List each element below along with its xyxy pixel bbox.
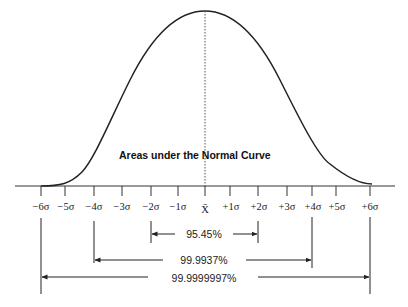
tick-label: −5σ [58,201,75,212]
tick-label: −2σ [143,201,160,212]
tick-label: −1σ [170,201,187,212]
diagram-title: Areas under the Normal Curve [119,149,271,161]
tick-label: +1σ [223,201,240,212]
tick-label: −6σ [33,201,50,212]
tick-label: +4σ [305,201,322,212]
tick-label: +5σ [329,201,346,212]
tick-label: −3σ [114,201,131,212]
normal-curve-diagram: Areas under the Normal Curve −6σ −5σ −4σ… [0,0,408,307]
range-4sigma: 99.9937% [95,254,311,266]
range-label-6sigma: 99.9999997% [172,272,237,284]
range-label-2sigma: 95.45% [186,228,222,240]
tick-label: +3σ [279,201,296,212]
tick-label: +6σ [362,201,379,212]
axis-ticks [41,186,370,196]
axis-tick-labels: −6σ −5σ −4σ −3σ −2σ −1σ X̄ +1σ +2σ +3σ +… [33,201,379,215]
range-label-4sigma: 99.9937% [180,254,227,266]
tick-label: −4σ [86,201,103,212]
tick-label: +2σ [251,201,268,212]
range-6sigma: 99.9999997% [42,272,369,284]
range-2sigma: 95.45% [152,228,257,240]
tick-label-mean: X̄ [201,204,209,215]
